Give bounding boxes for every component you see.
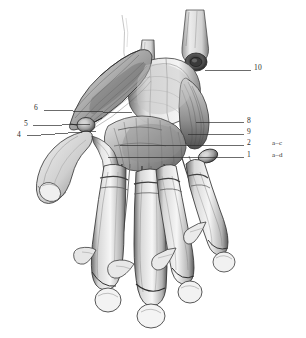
anatomical-plate: 6 5 4 10 8 9 2 1 a–c a–d bbox=[0, 0, 306, 338]
tendon-knob-radial bbox=[77, 118, 95, 133]
label-10: 10 bbox=[254, 64, 262, 72]
label-4: 4 bbox=[17, 131, 21, 139]
label-6: 6 bbox=[34, 104, 38, 112]
label-1: 1 bbox=[247, 151, 251, 159]
label-5: 5 bbox=[24, 120, 28, 128]
index-finger bbox=[74, 164, 128, 312]
hand-anatomy-illustration bbox=[0, 0, 306, 338]
label-2: 2 bbox=[247, 139, 251, 147]
annotation-a-d: a–d bbox=[272, 151, 283, 159]
label-9: 9 bbox=[247, 128, 251, 136]
annotation-a-c: a–c bbox=[272, 139, 282, 147]
label-8: 8 bbox=[247, 117, 251, 125]
